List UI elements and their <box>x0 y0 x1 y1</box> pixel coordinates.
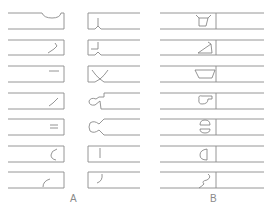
profile-a-left-5 <box>8 119 64 135</box>
profile-a-left-4 <box>8 93 64 109</box>
group-b <box>160 13 264 188</box>
profile-b-3 <box>195 70 215 78</box>
profile-a-left-1 <box>8 13 64 29</box>
profile-a-right-1 <box>88 13 140 29</box>
profile-a-left-3 <box>8 66 64 82</box>
profile-a-right-4 <box>89 93 140 109</box>
profile-b-2 <box>198 42 212 53</box>
profile-a-right-6 <box>88 146 140 162</box>
group-b-label: B <box>210 193 217 204</box>
diagram-canvas <box>0 0 273 210</box>
profile-b-1 <box>196 15 211 26</box>
profile-b-6 <box>200 149 207 160</box>
profile-a-left-2 <box>8 40 64 55</box>
group-a-right-column <box>88 13 140 188</box>
profile-b-4 <box>199 96 212 104</box>
profile-a-left-7 <box>8 172 64 188</box>
profile-a-left-6 <box>8 146 64 162</box>
group-a-left-column <box>8 13 64 188</box>
group-a-label: A <box>70 193 77 204</box>
profile-a-right-2 <box>88 40 140 55</box>
profile-a-right-7 <box>88 172 140 188</box>
profile-a-right-5 <box>89 119 140 135</box>
profile-a-right-3 <box>88 66 140 82</box>
profile-b-5 <box>200 120 210 133</box>
profile-b-7 <box>199 174 210 188</box>
